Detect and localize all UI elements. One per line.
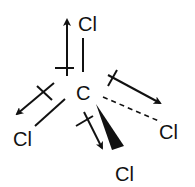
chlorine-bottom-label: Cl: [115, 163, 134, 185]
bond-right-dashed: [103, 97, 161, 122]
carbon-atom-label: C: [76, 82, 90, 104]
chlorine-left-label: Cl: [13, 128, 32, 150]
chlorine-right-label: Cl: [159, 121, 178, 143]
dipole-arrow-right: [108, 70, 160, 103]
dipole-arrow-bottom: [76, 112, 102, 148]
dipole-arrow-top: [55, 20, 74, 76]
dipole-arrow-left: [17, 83, 54, 114]
chlorine-top-label: Cl: [78, 13, 97, 35]
bond-left: [35, 99, 65, 126]
ccl4-diagram: C Cl Cl Cl Cl: [0, 0, 195, 187]
